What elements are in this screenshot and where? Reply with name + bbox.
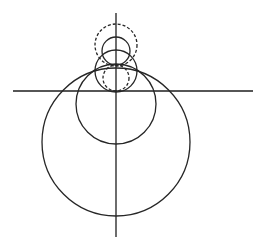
diagram-canvas [0, 0, 256, 243]
circles-diagram [0, 0, 256, 243]
